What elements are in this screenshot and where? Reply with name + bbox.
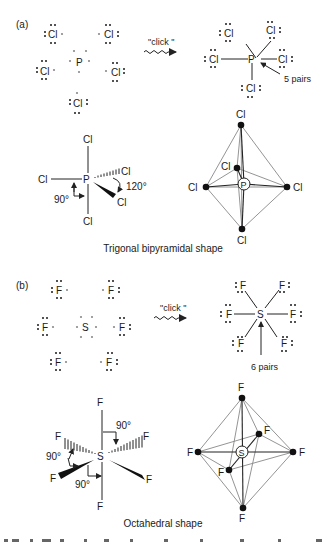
panel-b: (b) F F F S F bbox=[16, 280, 305, 529]
svg-text:Cl: Cl bbox=[38, 174, 47, 185]
svg-text:120°: 120° bbox=[126, 181, 147, 192]
angle-arc-icon bbox=[113, 178, 120, 192]
svg-text:S: S bbox=[239, 448, 245, 458]
svg-text:P: P bbox=[76, 57, 83, 68]
svg-text:F: F bbox=[264, 425, 270, 436]
caption-trigonal-bipyramidal: Trigonal bipyramidal shape bbox=[103, 243, 223, 254]
cl-atom: Cl bbox=[98, 24, 119, 44]
svg-text:F: F bbox=[108, 285, 114, 296]
svg-text:"click ": "click " bbox=[148, 37, 174, 47]
svg-text:F: F bbox=[281, 338, 287, 349]
svg-text:F: F bbox=[50, 473, 56, 484]
svg-text:Cl: Cl bbox=[246, 83, 255, 94]
svg-text:S: S bbox=[82, 322, 89, 333]
tbp-wedge-structure: Cl Cl P Cl Cl Cl 90° 120° bbox=[38, 134, 147, 227]
svg-text:F: F bbox=[97, 501, 103, 512]
svg-text:Cl: Cl bbox=[40, 66, 49, 77]
svg-text:F: F bbox=[239, 513, 245, 524]
cl-atom: Cl bbox=[105, 62, 125, 82]
svg-text:Cl: Cl bbox=[83, 134, 92, 145]
tbp-polyhedron: P Cl Cl Cl Cl Cl bbox=[188, 109, 302, 246]
svg-text:F: F bbox=[238, 338, 244, 349]
svg-text:Cl: Cl bbox=[73, 98, 82, 109]
svg-text:F: F bbox=[55, 431, 61, 442]
reaction-arrow: "click " bbox=[144, 37, 176, 54]
sf6-lewis-bonded: S F F F F F F bbox=[220, 280, 302, 372]
reaction-arrow: "click " bbox=[154, 303, 186, 320]
svg-text:Cl: Cl bbox=[104, 29, 113, 40]
svg-text:F: F bbox=[226, 309, 232, 320]
svg-text:P: P bbox=[241, 180, 247, 190]
panel-a: (a) Cl Cl P bbox=[16, 19, 312, 254]
angle-arrow-icon bbox=[88, 465, 101, 476]
svg-text:Cl: Cl bbox=[209, 54, 218, 65]
cl-atom: Cl bbox=[44, 24, 63, 44]
svg-text:F: F bbox=[290, 309, 296, 320]
svg-text:90°: 90° bbox=[54, 194, 69, 205]
svg-text:Cl: Cl bbox=[83, 216, 92, 227]
svg-text:Cl: Cl bbox=[236, 109, 245, 120]
angle-arrow-icon bbox=[103, 432, 116, 444]
svg-text:F: F bbox=[218, 467, 224, 478]
svg-text:Cl: Cl bbox=[221, 161, 230, 172]
svg-text:90°: 90° bbox=[116, 420, 131, 431]
svg-text:Cl: Cl bbox=[188, 182, 197, 193]
angle-arrow-icon bbox=[68, 458, 78, 466]
svg-text:F: F bbox=[146, 474, 152, 485]
svg-text:S: S bbox=[257, 309, 264, 320]
svg-text:Cl: Cl bbox=[111, 67, 120, 78]
svg-text:Cl: Cl bbox=[266, 25, 275, 36]
svg-text:Cl: Cl bbox=[293, 182, 302, 193]
svg-text:F: F bbox=[42, 322, 48, 333]
squiggle-arrow-icon bbox=[144, 51, 176, 54]
svg-text:F: F bbox=[299, 447, 305, 458]
svg-text:90°: 90° bbox=[46, 451, 61, 462]
svg-text:F: F bbox=[143, 431, 149, 442]
svg-text:F: F bbox=[106, 357, 112, 368]
svg-text:Cl: Cl bbox=[117, 197, 126, 208]
svg-text:F: F bbox=[55, 357, 61, 368]
pcl5-lewis-bonded: P Cl Cl Cl Cl Cl bbox=[204, 21, 312, 98]
angle-arrow-icon bbox=[74, 184, 84, 196]
svg-text:"click ": "click " bbox=[160, 303, 186, 313]
svg-text:F: F bbox=[187, 447, 193, 458]
pcl5-lewis-separate: Cl Cl P Cl bbox=[36, 24, 125, 114]
svg-text:P: P bbox=[248, 54, 255, 65]
svg-text:F: F bbox=[56, 285, 62, 296]
vsepr-figure: (a) Cl Cl P bbox=[0, 0, 327, 542]
svg-text:S: S bbox=[97, 451, 104, 462]
p-atom: P bbox=[69, 50, 90, 73]
panel-b-label: (b) bbox=[16, 280, 28, 291]
svg-text:Cl: Cl bbox=[237, 235, 246, 246]
svg-text:Cl: Cl bbox=[48, 29, 57, 40]
svg-text:Cl: Cl bbox=[278, 54, 287, 65]
squiggle-arrow-icon bbox=[154, 317, 186, 320]
cl-atom: Cl bbox=[69, 92, 88, 114]
cl-atom: Cl bbox=[36, 60, 55, 80]
svg-text:Cl: Cl bbox=[224, 28, 233, 39]
oct-polyhedron: S F F F F F F bbox=[187, 382, 305, 524]
svg-text:90°: 90° bbox=[75, 479, 90, 490]
sf6-lewis-separate: F F F S F bbox=[37, 280, 131, 371]
svg-text:5 pairs: 5 pairs bbox=[284, 74, 312, 84]
svg-text:F: F bbox=[97, 397, 103, 408]
svg-text:F: F bbox=[119, 322, 125, 333]
oct-wedge-structure: F F S F F F F 90° 90° 90° bbox=[46, 397, 152, 512]
svg-text:F: F bbox=[238, 382, 244, 393]
panel-a-label: (a) bbox=[16, 19, 28, 30]
svg-text:F: F bbox=[279, 280, 285, 291]
svg-text:F: F bbox=[240, 280, 246, 291]
caption-octahedral: Octahedral shape bbox=[124, 518, 203, 529]
svg-text:6 pairs: 6 pairs bbox=[251, 362, 279, 372]
svg-text:Cl: Cl bbox=[121, 166, 130, 177]
svg-text:P: P bbox=[83, 174, 90, 185]
